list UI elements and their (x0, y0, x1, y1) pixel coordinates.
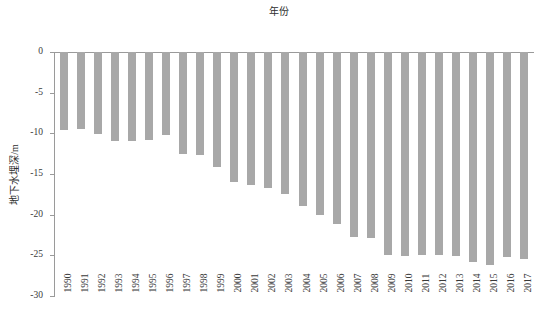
y-axis-tick-label: -10 (30, 129, 43, 139)
x-axis-label-1991: 1991 (81, 273, 91, 292)
x-axis-label-1998: 1998 (200, 273, 210, 292)
x-axis-label-1997: 1997 (183, 273, 193, 292)
y-axis-tick-label: -20 (30, 210, 43, 220)
x-axis-label-2007: 2007 (354, 273, 364, 292)
x-axis-label-2009: 2009 (388, 273, 398, 292)
bar-2009 (384, 52, 392, 255)
bar-2010 (401, 52, 409, 256)
bar-2003 (281, 52, 289, 194)
x-axis-label-2015: 2015 (490, 273, 500, 292)
x-axis-label-1993: 1993 (115, 273, 125, 292)
y-axis-tick: -30 (50, 296, 55, 297)
x-axis-label-2011: 2011 (422, 273, 432, 292)
bar-1995 (145, 52, 153, 140)
bar-2005 (316, 52, 324, 215)
chart-title: 年份 (0, 3, 558, 18)
bar-2016 (503, 52, 511, 257)
y-axis-tick-label: -25 (30, 251, 43, 261)
x-axis-label-2016: 2016 (507, 273, 517, 292)
x-axis-label-2006: 2006 (337, 273, 347, 292)
bar-2004 (299, 52, 307, 206)
y-axis-tick: 0 (50, 52, 55, 53)
bar-1993 (111, 52, 119, 141)
bar-2011 (418, 52, 426, 255)
x-axis-label-1999: 1999 (217, 273, 227, 292)
y-axis-tick: -15 (50, 174, 55, 175)
x-axis-label-2001: 2001 (251, 273, 261, 292)
bar-2017 (520, 52, 528, 259)
x-axis-label-2013: 2013 (456, 273, 466, 292)
bar-1999 (213, 52, 221, 167)
y-axis-tick-label: 0 (38, 47, 43, 57)
bar-1994 (128, 52, 136, 141)
bar-1997 (179, 52, 187, 154)
x-axis-label-2008: 2008 (371, 273, 381, 292)
x-axis-label-2002: 2002 (268, 273, 278, 292)
x-axis-label-1994: 1994 (132, 273, 142, 292)
x-axis-label-2003: 2003 (285, 273, 295, 292)
y-axis-tick: -10 (50, 133, 55, 134)
bar-1990 (60, 52, 68, 130)
x-axis-label-2012: 2012 (439, 273, 449, 292)
y-axis-tick: -5 (50, 93, 55, 94)
x-axis-label-2005: 2005 (320, 273, 330, 292)
y-axis-tick: -25 (50, 255, 55, 256)
bar-2015 (486, 52, 494, 265)
bar-1992 (94, 52, 102, 134)
x-axis-label-1992: 1992 (98, 273, 108, 292)
x-axis-label-2000: 2000 (234, 273, 244, 292)
bar-2012 (435, 52, 443, 255)
groundwater-depth-bar-chart: 年份 地下水埋深/m 0-5-10-15-20-25-3019901991199… (0, 0, 558, 327)
y-axis-title: 地下水埋深/m (6, 52, 20, 296)
bar-2000 (230, 52, 238, 182)
x-axis-label-2017: 2017 (524, 273, 534, 292)
y-axis-tick-label: -15 (30, 169, 43, 179)
y-axis-title-label: 地下水埋深/m (6, 144, 21, 205)
bar-2006 (333, 52, 341, 224)
plot-area: 0-5-10-15-20-25-301990199119921993199419… (55, 52, 533, 296)
bar-2007 (350, 52, 358, 237)
x-axis-label-2014: 2014 (473, 273, 483, 292)
bar-2014 (469, 52, 477, 262)
bar-1991 (77, 52, 85, 129)
y-axis-tick: -20 (50, 215, 55, 216)
x-axis-label-2010: 2010 (405, 273, 415, 292)
bar-1996 (162, 52, 170, 135)
bar-2013 (452, 52, 460, 256)
x-axis-label-2004: 2004 (303, 273, 313, 292)
bar-1998 (196, 52, 204, 155)
bar-2001 (247, 52, 255, 185)
x-axis-label-1996: 1996 (166, 273, 176, 292)
x-axis-label-1995: 1995 (149, 273, 159, 292)
y-axis-tick-label: -30 (30, 291, 43, 301)
bar-2002 (264, 52, 272, 188)
y-axis-tick-label: -5 (35, 88, 43, 98)
x-axis-label-1990: 1990 (64, 273, 74, 292)
bar-2008 (367, 52, 375, 238)
